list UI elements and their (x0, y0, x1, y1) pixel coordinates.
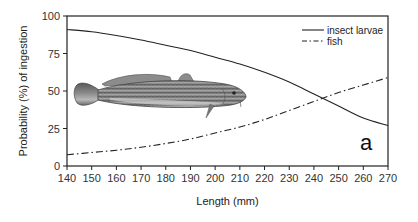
x-tick-label: 140 (58, 172, 76, 184)
y-tick-label: 25 (48, 123, 60, 135)
y-tick-label: 100 (42, 10, 60, 22)
x-tick-label: 170 (132, 172, 150, 184)
y-tick-label: 0 (54, 160, 60, 172)
x-tick-label: 200 (206, 172, 224, 184)
x-tick-label: 210 (231, 172, 249, 184)
y-tick-label: 50 (48, 85, 60, 97)
fish-tail (74, 83, 101, 105)
x-tick-label: 260 (354, 172, 372, 184)
x-tick-label: 240 (305, 172, 323, 184)
chart: 1401501601701801902002102202302402502602… (0, 0, 418, 222)
x-tick-label: 270 (379, 172, 397, 184)
legend-label: fish (327, 36, 343, 47)
legend-label: insect larvae (327, 25, 384, 36)
x-axis-title: Length (mm) (196, 195, 258, 207)
x-tick-label: 190 (181, 172, 199, 184)
panel-label: a (360, 130, 373, 155)
y-tick-label: 75 (48, 48, 60, 60)
x-tick-label: 180 (157, 172, 175, 184)
fish-eye (232, 91, 236, 95)
fish-illustration (74, 74, 246, 118)
x-tick-label: 230 (280, 172, 298, 184)
x-tick-label: 250 (329, 172, 347, 184)
x-tick-label: 150 (83, 172, 101, 184)
y-axis: 0255075100 (42, 10, 67, 172)
y-axis-title: Probability (%) of ingestion (17, 26, 29, 157)
x-axis: 1401501601701801902002102202302402502602… (58, 166, 397, 184)
x-tick-label: 220 (255, 172, 273, 184)
x-tick-label: 160 (107, 172, 125, 184)
legend: insect larvaefish (302, 25, 384, 47)
